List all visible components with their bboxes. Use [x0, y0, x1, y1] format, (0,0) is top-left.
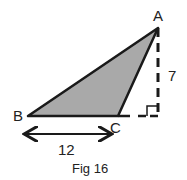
height-label: 7 — [168, 68, 176, 83]
triangle-diagram — [0, 0, 187, 180]
figure-caption: Fig 16 — [72, 162, 108, 175]
triangle-abc — [28, 28, 158, 116]
vertex-label-a: A — [153, 8, 163, 23]
vertex-label-b: B — [13, 108, 23, 123]
base-label: 12 — [58, 142, 75, 157]
right-angle-marker — [147, 106, 158, 116]
vertex-label-c: C — [110, 120, 121, 135]
